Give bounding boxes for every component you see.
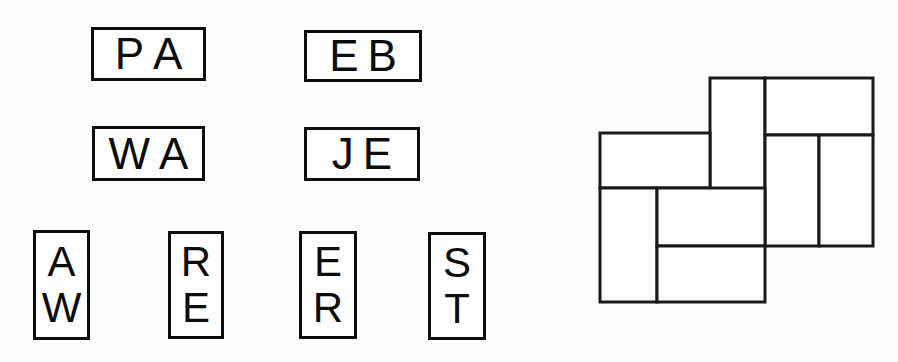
rect-left-lower xyxy=(600,188,657,302)
rect-right-outer xyxy=(819,135,873,246)
tile-letter: W xyxy=(109,132,151,176)
rectangle-tiling-figure xyxy=(598,76,878,306)
puzzle-page: P A E B W A J E A W R E E R S T xyxy=(0,0,898,362)
letter-tile-aw[interactable]: A W xyxy=(33,230,90,340)
tile-letter: A xyxy=(47,241,75,283)
tile-letter: T xyxy=(444,288,470,330)
tile-letter: E xyxy=(329,34,358,78)
rect-top-right xyxy=(765,78,873,135)
rect-bottom-mid xyxy=(657,246,765,302)
letter-tile-eb[interactable]: E B xyxy=(304,30,422,82)
tile-letter: P xyxy=(115,32,144,76)
tile-letter: E xyxy=(314,241,342,283)
rect-left-upper xyxy=(600,133,710,188)
letter-tile-re[interactable]: R E xyxy=(168,231,224,339)
letter-tile-er[interactable]: E R xyxy=(299,231,357,339)
rect-right-inner xyxy=(765,135,819,246)
tile-letter: S xyxy=(443,242,471,284)
tile-letter: R xyxy=(313,287,343,329)
tile-letter: B xyxy=(368,34,397,78)
rect-top-tall xyxy=(710,78,765,193)
tile-letter: A xyxy=(159,132,188,176)
letter-tile-je[interactable]: J E xyxy=(304,127,420,181)
tile-letter: E xyxy=(363,132,392,176)
tile-letter: R xyxy=(181,241,211,283)
letter-tile-pa[interactable]: P A xyxy=(91,27,206,81)
tile-letter: W xyxy=(42,287,82,329)
tile-letter: A xyxy=(153,32,182,76)
tile-letter: E xyxy=(182,287,210,329)
letter-tile-wa[interactable]: W A xyxy=(92,126,205,181)
letter-tile-st[interactable]: S T xyxy=(428,232,486,340)
rect-mid-middle xyxy=(657,188,765,246)
tile-letter: J xyxy=(332,132,354,176)
